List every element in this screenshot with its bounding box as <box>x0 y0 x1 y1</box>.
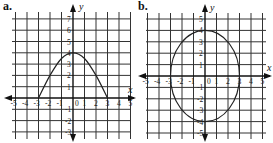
x-tick-label: 1 <box>83 99 87 108</box>
x-tick-label: -5 <box>11 99 17 108</box>
x-tick-label: -2 <box>45 99 51 108</box>
y-tick-label: -2 <box>197 95 203 104</box>
y-tick-label: -1 <box>197 83 203 92</box>
x-tick-label: -5 <box>143 77 149 86</box>
x-tick-label: 2 <box>94 99 98 108</box>
y-tick-label: -1 <box>65 105 71 114</box>
x-tick-label: 3 <box>106 99 110 108</box>
y-tick-label: 2 <box>199 49 203 58</box>
y-tick-label: 6 <box>67 26 71 35</box>
y-tick-label: 3 <box>199 38 203 47</box>
x-tick-label: -3 <box>34 99 40 108</box>
graph-b: -5-4-3-2-101234554321-1-2-3-4-5 x y b. <box>136 0 273 143</box>
y-tick-label: -5 <box>197 129 203 138</box>
x-tick-label: 0 <box>75 99 79 108</box>
y-tick-label: -4 <box>197 118 203 127</box>
graph-b-canvas: -5-4-3-2-101234554321-1-2-3-4-5 x y <box>136 0 273 143</box>
y-axis-label-a: y <box>78 1 84 12</box>
x-tick-label: -1 <box>57 99 63 108</box>
x-tick-label: 1 <box>215 77 219 86</box>
x-tick-label: -4 <box>22 99 28 108</box>
y-tick-label: 1 <box>199 61 203 70</box>
x-tick-label: 5 <box>261 77 265 86</box>
y-tick-label: 5 <box>67 38 71 47</box>
y-tick-label: 1 <box>67 83 71 92</box>
y-tick-label: 7 <box>67 15 71 24</box>
graph-a: -5-4-3-2-10123457654321-1-2-3 x y a. <box>0 0 137 143</box>
graph-a-canvas: -5-4-3-2-10123457654321-1-2-3 x y <box>0 0 137 143</box>
x-axis-label-a: x <box>127 84 133 95</box>
y-tick-label: -3 <box>65 128 71 137</box>
x-tick-label: -4 <box>154 77 160 86</box>
panel-label-b: b. <box>138 0 148 14</box>
y-tick-label: -3 <box>197 106 203 115</box>
x-tick-label: 4 <box>249 77 253 86</box>
panel-label-a: a. <box>3 0 12 14</box>
x-tick-label: 0 <box>207 77 211 86</box>
x-tick-label: -1 <box>189 77 195 86</box>
y-tick-label: 5 <box>199 15 203 24</box>
y-tick-label: 3 <box>67 60 71 69</box>
x-tick-label: 2 <box>226 77 230 86</box>
y-tick-label: 2 <box>67 71 71 80</box>
x-tick-label: 4 <box>117 99 121 108</box>
y-tick-label: -2 <box>65 117 71 126</box>
x-tick-label: -2 <box>177 77 183 86</box>
y-axis-label-b: y <box>209 2 215 13</box>
x-axis-label-b: x <box>266 62 272 73</box>
grid-a <box>12 12 131 139</box>
x-tick-label: 5 <box>129 99 133 108</box>
